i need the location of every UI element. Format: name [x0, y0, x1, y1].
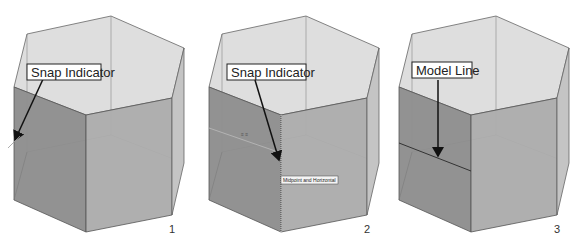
panel-3: Model Line 3	[399, 16, 569, 235]
hexagonal-prism	[399, 16, 569, 232]
callout-label: Snap Indicator	[31, 65, 116, 80]
callout-label: Snap Indicator	[231, 65, 316, 80]
figure: Snap Indicator 1 ≡ ≡ Snap Indicator Midp…	[0, 0, 583, 248]
panel-1: Snap Indicator 1	[8, 16, 184, 235]
panel-number: 3	[554, 223, 560, 235]
panel-number: 1	[169, 223, 175, 235]
snap-tooltip-text: Midpoint and Horizontal	[283, 177, 336, 183]
snap-glyph: ≡ ≡	[241, 131, 248, 137]
panel-number: 2	[364, 223, 370, 235]
hexagonal-prism	[14, 16, 184, 232]
callout-label: Model Line	[416, 63, 480, 78]
panel-2: ≡ ≡ Snap Indicator Midpoint and Horizont…	[209, 16, 379, 235]
hexagonal-prism	[209, 16, 379, 232]
